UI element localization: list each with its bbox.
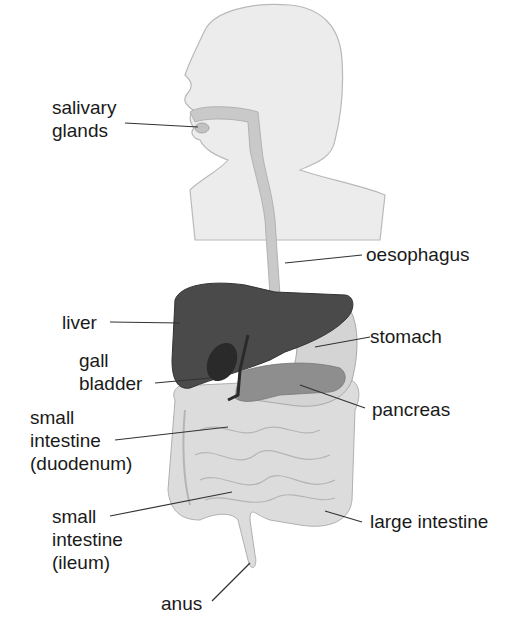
body-silhouette bbox=[185, 4, 385, 240]
label-large-intestine: large intestine bbox=[370, 510, 488, 533]
label-small-intestine-ileum: smallintestine(ileum) bbox=[52, 505, 123, 574]
salivary-gland-shape bbox=[195, 123, 209, 133]
label-gall-bladder: gallbladder bbox=[79, 349, 142, 395]
label-liver: liver bbox=[62, 311, 97, 334]
label-oesophagus: oesophagus bbox=[366, 243, 470, 266]
large-intestine-shape bbox=[168, 378, 359, 568]
label-salivary-glands: salivaryglands bbox=[52, 96, 116, 142]
label-small-intestine-duodenum: smallintestine(duodenum) bbox=[30, 406, 132, 475]
label-pancreas: pancreas bbox=[372, 398, 450, 421]
label-anus: anus bbox=[161, 592, 202, 615]
label-stomach: stomach bbox=[370, 325, 442, 348]
